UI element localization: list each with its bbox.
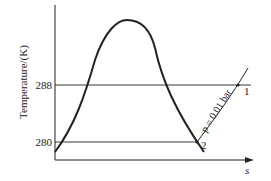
point-1-label: 1 (244, 85, 250, 97)
y-axis-label: Temperature/(K) (17, 45, 30, 119)
point-2-label: 2 (201, 139, 207, 151)
point-2-marker (195, 140, 198, 143)
x-axis-label: s (245, 164, 249, 176)
isobar-label: p = 0.01 bar (198, 87, 233, 134)
ytick-280: 280 (36, 136, 53, 148)
ts-diagram: 1 2 288 280 s Temperature/(K) p = 0.01 b… (0, 0, 271, 181)
x-axis-arrow-icon (245, 157, 254, 163)
point-1-marker (236, 83, 239, 86)
ytick-288: 288 (36, 79, 53, 91)
saturation-dome (55, 20, 204, 152)
